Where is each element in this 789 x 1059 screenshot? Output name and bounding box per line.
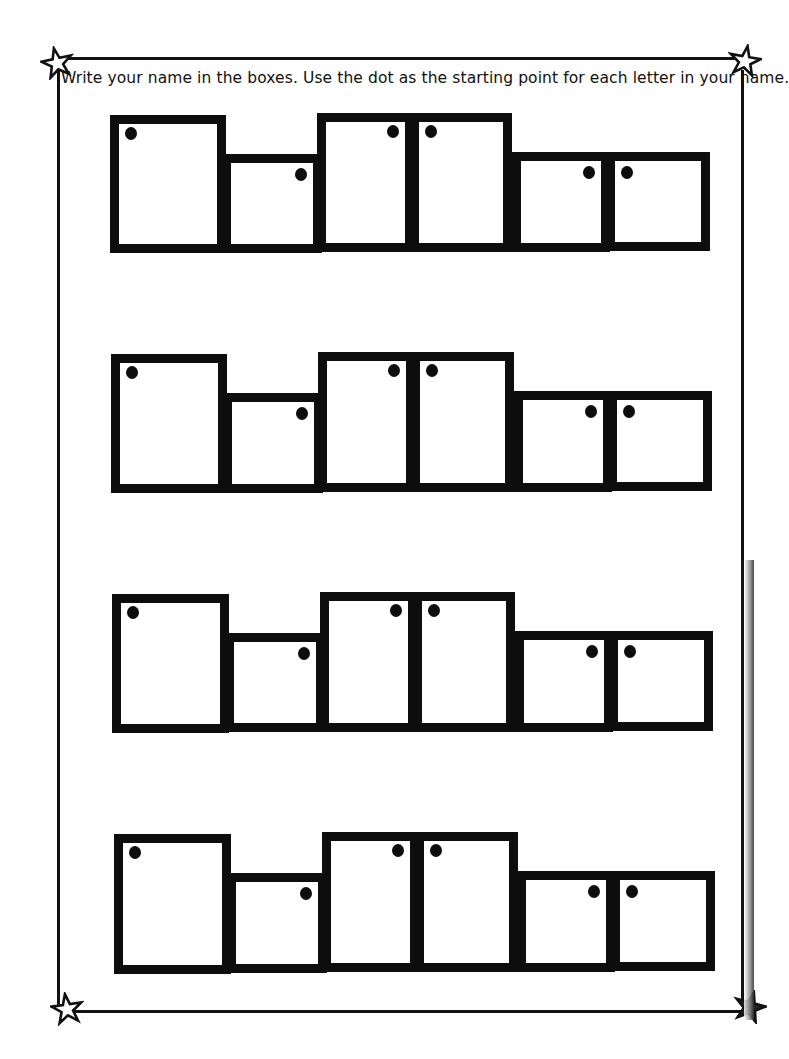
letter-box[interactable] xyxy=(413,592,515,732)
start-dot-icon xyxy=(300,887,312,900)
start-dot-icon xyxy=(295,168,307,181)
letter-box[interactable] xyxy=(515,631,613,732)
letter-box[interactable] xyxy=(223,393,323,493)
letter-box[interactable] xyxy=(322,832,419,972)
start-dot-icon xyxy=(585,405,597,418)
start-dot-icon xyxy=(392,844,404,857)
letter-box[interactable] xyxy=(609,631,713,731)
start-dot-icon xyxy=(588,885,600,898)
letter-box[interactable] xyxy=(608,391,712,491)
start-dot-icon xyxy=(125,127,137,140)
letter-box[interactable] xyxy=(517,871,615,972)
letter-box[interactable] xyxy=(222,154,322,253)
letter-box[interactable] xyxy=(111,354,227,493)
star-icon xyxy=(50,992,84,1026)
letter-box[interactable] xyxy=(320,592,417,732)
start-dot-icon xyxy=(296,407,308,420)
letter-box[interactable] xyxy=(611,871,715,971)
page-edge-shadow xyxy=(744,560,754,1020)
start-dot-icon xyxy=(621,166,633,179)
border-left xyxy=(57,70,60,1005)
start-dot-icon xyxy=(583,166,595,179)
start-dot-icon xyxy=(126,366,138,379)
start-dot-icon xyxy=(298,647,310,660)
letter-box[interactable] xyxy=(411,352,514,492)
start-dot-icon xyxy=(425,125,437,138)
start-dot-icon xyxy=(430,844,442,857)
start-dot-icon xyxy=(586,645,598,658)
letter-box[interactable] xyxy=(410,113,512,252)
letter-box[interactable] xyxy=(415,832,518,972)
start-dot-icon xyxy=(129,846,141,859)
border-top xyxy=(58,57,742,60)
letter-box[interactable] xyxy=(317,113,414,252)
start-dot-icon xyxy=(428,604,440,617)
border-bottom xyxy=(68,1010,744,1013)
start-dot-icon xyxy=(388,364,400,377)
instructions-text: Write your name in the boxes. Use the do… xyxy=(61,69,751,87)
start-dot-icon xyxy=(127,606,139,619)
start-dot-icon xyxy=(387,125,399,138)
letter-box[interactable] xyxy=(114,834,231,974)
letter-box[interactable] xyxy=(112,594,229,733)
letter-box[interactable] xyxy=(318,352,415,492)
start-dot-icon xyxy=(426,364,438,377)
letter-box[interactable] xyxy=(606,152,710,251)
letter-box[interactable] xyxy=(512,152,610,252)
letter-box[interactable] xyxy=(514,391,612,492)
start-dot-icon xyxy=(624,645,636,658)
start-dot-icon xyxy=(623,405,635,418)
letter-box[interactable] xyxy=(110,115,226,253)
letter-box[interactable] xyxy=(225,633,325,732)
letter-box[interactable] xyxy=(227,873,327,973)
start-dot-icon xyxy=(390,604,402,617)
start-dot-icon xyxy=(626,885,638,898)
